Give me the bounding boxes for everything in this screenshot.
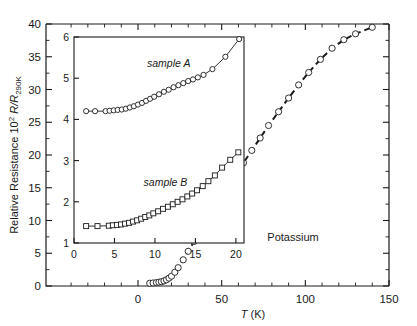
inset-y-tick-label: 6 <box>63 31 69 43</box>
sample-a-label: sample A <box>147 57 190 69</box>
inset-x-tick-label: 0 <box>71 248 77 260</box>
figure-panel: 0510152025303540050100150 Relative Resis… <box>0 0 417 326</box>
inset-data-point <box>195 188 200 193</box>
main-y-tick-label: 0 <box>35 280 41 292</box>
resistance-vs-temperature-chart: 0510152025303540050100150 Relative Resis… <box>0 0 417 326</box>
main-data-point <box>352 31 358 37</box>
inset-data-point <box>84 224 89 229</box>
inset-data-point <box>236 150 241 155</box>
inset-y-tick-label: 1 <box>63 237 69 249</box>
svg-text:T (K): T (K) <box>241 308 265 320</box>
main-data-point <box>286 95 292 101</box>
main-y-tick-label: 15 <box>28 182 41 194</box>
x-axis-title: T (K) <box>241 308 265 320</box>
inset-data-point <box>200 184 205 189</box>
inset-data-point <box>175 199 180 204</box>
inset-y-tick-label: 5 <box>63 72 69 84</box>
inset-x-tick-label: 20 <box>230 248 242 260</box>
inset-data-point <box>180 197 185 202</box>
main-data-point <box>180 257 186 263</box>
potassium-annotation: Potassium <box>267 231 318 243</box>
main-x-tick-label: 100 <box>296 293 315 305</box>
main-y-tick-label: 25 <box>28 116 41 128</box>
inset-data-point <box>84 109 89 114</box>
y-axis-title-prefix: Relative Resistance 10 <box>8 121 20 234</box>
inset-data-point <box>220 165 225 170</box>
inset-data-point <box>185 194 190 199</box>
inset-data-point <box>228 157 233 162</box>
inset-y-tick-label: 3 <box>63 155 69 167</box>
main-x-tick-label: 50 <box>215 293 228 305</box>
inset-data-point <box>237 36 242 41</box>
inset-data-point <box>152 94 157 99</box>
sample-b-label: sample B <box>144 176 188 188</box>
main-data-point <box>249 147 255 153</box>
x-axis-title-unit: (K) <box>251 308 266 320</box>
inset-data-point <box>95 224 100 229</box>
inset-data-point <box>165 204 170 209</box>
inset-panel: 12345605101520 sample A sample B <box>63 31 244 260</box>
main-data-point <box>317 56 323 62</box>
inset-x-tick-label: 15 <box>190 248 202 260</box>
inset-y-tick-label: 4 <box>63 113 69 125</box>
inset-data-point <box>92 109 97 114</box>
main-data-point <box>175 265 181 271</box>
inset-x-tick-label: 10 <box>149 248 161 260</box>
svg-text:Relative Resistance 102 R/R290: Relative Resistance 102 R/R290K <box>7 76 23 234</box>
inset-data-point <box>156 92 161 97</box>
inset-data-point <box>161 206 166 211</box>
inset-data-point <box>170 202 175 207</box>
inset-data-point <box>151 211 156 216</box>
inset-y-tick-label: 2 <box>63 196 69 208</box>
inset-data-point <box>156 209 161 214</box>
inset-data-point <box>212 173 217 178</box>
main-y-tick-label: 30 <box>28 84 41 96</box>
main-x-tick-label: 0 <box>135 293 141 305</box>
main-y-tick-label: 10 <box>28 215 41 227</box>
main-data-point <box>329 45 335 51</box>
main-data-point <box>369 24 375 30</box>
y-axis-title-ratio: R/R <box>8 95 20 114</box>
main-data-point <box>306 69 312 75</box>
inset-data-point <box>195 75 200 80</box>
y-axis-title-subscript: 290K <box>14 76 23 95</box>
main-y-tick-label: 20 <box>28 149 41 161</box>
inset-data-point <box>190 191 195 196</box>
main-x-tick-label: 150 <box>379 293 398 305</box>
inset-data-point <box>166 87 171 92</box>
main-data-point <box>296 82 302 88</box>
main-data-point <box>341 37 347 43</box>
inset-data-point <box>210 67 215 72</box>
inset-x-tick-label: 5 <box>112 248 118 260</box>
main-data-point <box>275 109 281 115</box>
main-y-tick-label: 35 <box>28 51 41 63</box>
main-data-point <box>265 122 271 128</box>
main-y-tick-label: 40 <box>28 18 41 30</box>
inset-data-point <box>201 72 206 77</box>
main-y-tick-label: 5 <box>35 247 41 259</box>
inset-data-point <box>223 54 228 59</box>
main-data-point <box>257 135 263 141</box>
y-axis-title: Relative Resistance 102 R/R290K <box>7 76 23 234</box>
inset-data-point <box>206 179 211 184</box>
